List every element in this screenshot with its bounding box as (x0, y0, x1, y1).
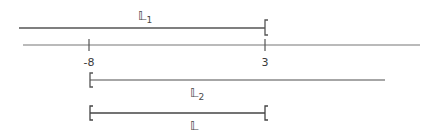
interval-l-label: 𝕃 (190, 118, 199, 133)
interval-l1: 𝕃1 (19, 8, 268, 35)
interval-l-right-bracket (265, 106, 268, 120)
interval-l1-right-bracket (265, 20, 268, 35)
interval-l2: 𝕃2 (90, 73, 385, 102)
tick-label-neg8: -8 (84, 56, 95, 69)
interval-diagram: 𝕃1 -8 3 𝕃2 𝕃 (0, 0, 439, 134)
number-line: -8 3 (23, 39, 420, 69)
interval-l: 𝕃 (90, 106, 268, 133)
interval-l2-label: 𝕃2 (190, 85, 204, 102)
tick-label-3: 3 (262, 56, 269, 69)
interval-l1-label: 𝕃1 (138, 8, 152, 25)
